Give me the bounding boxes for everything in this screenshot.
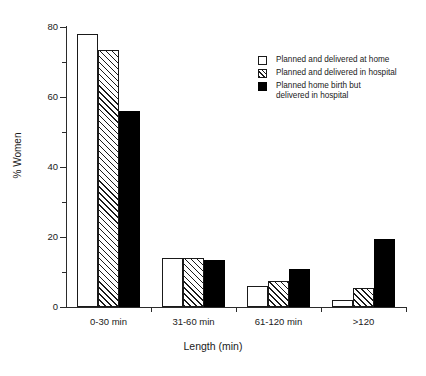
bar — [374, 239, 395, 307]
bar — [353, 288, 374, 307]
legend-item: Planned and delivered at home — [258, 55, 426, 65]
legend: Planned and delivered at home Planned an… — [258, 55, 426, 103]
y-tick — [60, 97, 66, 98]
y-tick-minor — [62, 202, 66, 203]
x-tick — [151, 307, 152, 312]
bar — [77, 34, 98, 307]
x-tick — [321, 307, 322, 312]
y-axis-title: % Women — [12, 121, 23, 191]
y-tick-label: 60 — [28, 92, 58, 102]
y-axis-line — [66, 26, 67, 308]
y-tick — [60, 237, 66, 238]
bar — [119, 111, 140, 307]
legend-item-label: Planned and delivered in hospital — [276, 68, 397, 78]
y-tick-minor — [62, 132, 66, 133]
y-tick-label: 0 — [28, 302, 58, 312]
bar — [204, 260, 225, 307]
bar — [98, 50, 119, 307]
x-tick-label: 0-30 min — [66, 316, 151, 327]
legend-item-label: Planned home birth but delivered in hosp… — [276, 81, 361, 100]
x-axis-title: Length (min) — [0, 340, 426, 352]
y-tick-label-text: 80 — [32, 22, 58, 32]
bar — [289, 269, 310, 308]
legend-swatch-solid-icon — [258, 82, 267, 91]
y-tick-label-text: 60 — [32, 92, 58, 102]
y-tick-label: 20 — [28, 232, 58, 242]
x-tick — [236, 307, 237, 312]
y-tick-minor — [62, 62, 66, 63]
bar — [332, 300, 353, 307]
legend-item: Planned home birth but delivered in hosp… — [258, 81, 426, 100]
bar — [183, 258, 204, 307]
x-tick-label: >120 — [321, 316, 406, 327]
legend-item-label: Planned and delivered at home — [276, 55, 389, 65]
bar — [247, 286, 268, 307]
y-tick-minor — [62, 272, 66, 273]
bar — [268, 281, 289, 307]
bar-chart: % Women 020406080 0-30 min31-60 min61-12… — [0, 0, 426, 376]
x-tick-label: 61-120 min — [236, 316, 321, 327]
y-tick-label: 80 — [28, 22, 58, 32]
y-tick-label-text: 0 — [32, 302, 58, 312]
x-tick — [406, 307, 407, 312]
x-tick-label: 31-60 min — [151, 316, 236, 327]
legend-swatch-hatched-icon — [258, 69, 267, 78]
y-tick — [60, 307, 66, 308]
legend-item-label-line2: delivered in hospital — [276, 91, 348, 100]
y-tick-label-text: 40 — [32, 162, 58, 172]
legend-item-label-line1: Planned home birth but — [276, 81, 361, 90]
y-tick-label: 40 — [28, 162, 58, 172]
y-tick — [60, 167, 66, 168]
legend-item: Planned and delivered in hospital — [258, 68, 426, 78]
bar — [162, 258, 183, 307]
y-tick — [60, 27, 66, 28]
y-tick-label-text: 20 — [32, 232, 58, 242]
legend-swatch-open-icon — [258, 56, 267, 65]
